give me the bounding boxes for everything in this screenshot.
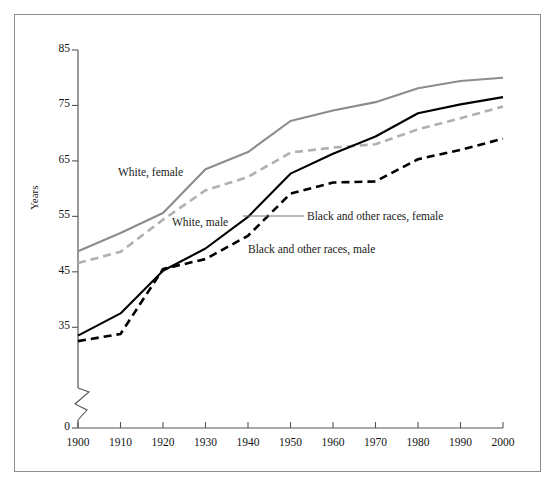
y-tick-label: 35	[32, 319, 70, 331]
x-tick-label: 2000	[478, 436, 528, 448]
series-line-white-female	[78, 78, 503, 252]
y-tick-label: 75	[32, 97, 70, 109]
series-label-white-male: White, male	[172, 216, 228, 228]
y-tick-label: 45	[32, 264, 70, 276]
chart-figure: Years 8575655545350190019101920193019401…	[0, 0, 556, 488]
series-label-black-male: Black and other races, male	[248, 243, 375, 255]
y-tick-label: 55	[32, 208, 70, 220]
y-tick-label-zero: 0	[32, 420, 70, 432]
y-tick-label: 85	[32, 42, 70, 54]
series-label-white-female: White, female	[118, 166, 183, 178]
axis-break-symbol	[75, 388, 89, 420]
y-tick-label: 65	[32, 153, 70, 165]
series-line-white-male	[78, 107, 503, 263]
series-label-black-female: Black and other races, female	[307, 210, 443, 222]
